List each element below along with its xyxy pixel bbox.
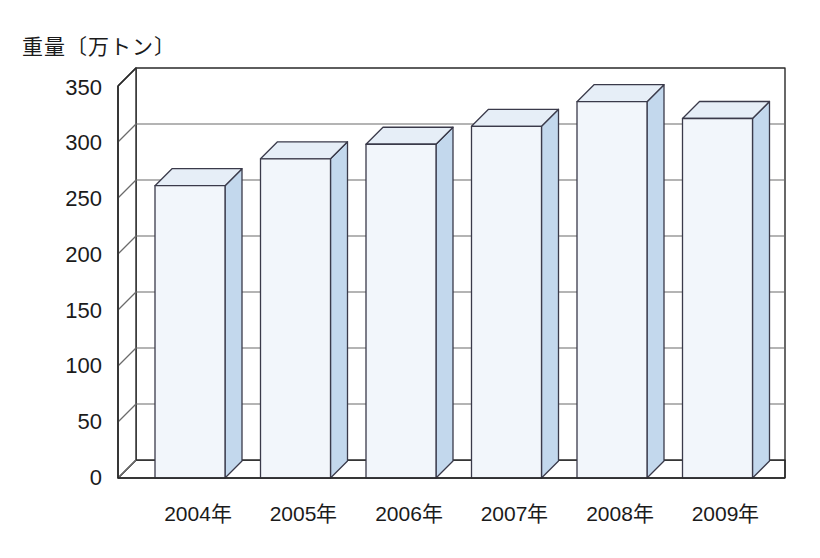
bar-chart: 重量〔万トン〕 350 300 250 200 150 100 50 0 200… [0,0,820,558]
bar-side-face [753,101,770,478]
bar-front-face [577,102,647,478]
bar-front-face [155,186,225,478]
left-wall [118,68,136,478]
bar-side-face [436,127,453,478]
bar-front-face [366,144,436,478]
bar-column [155,169,242,478]
bar-side-face [647,85,664,478]
bar-front-face [261,159,331,478]
bar-column [366,127,453,478]
bar-column [577,85,664,478]
x-tick-label: 2004年 [164,497,232,527]
bar-side-face [331,142,348,478]
bar-front-face [683,118,753,478]
x-tick-label: 2006年 [375,497,443,527]
x-tick-label: 2009年 [692,497,760,527]
bar-front-face [472,126,542,478]
bar-side-face [225,169,242,478]
bar-column [261,142,348,478]
x-tick-label: 2005年 [270,497,338,527]
chart-canvas [0,0,820,558]
x-tick-label: 2007年 [481,497,549,527]
bar-side-face [542,109,559,478]
x-tick-label: 2008年 [586,497,654,527]
bar-column [683,101,770,478]
bar-column [472,109,559,478]
